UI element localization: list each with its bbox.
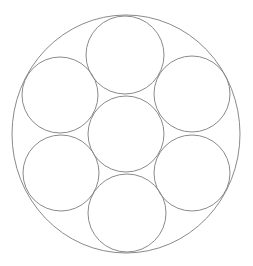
outer-circle [12, 15, 240, 253]
inner-circle-bottom [88, 174, 166, 252]
inner-circle-top [86, 16, 164, 94]
inner-circle-lower-right [154, 135, 230, 211]
inner-circle-center [88, 96, 164, 172]
diagram-canvas [0, 0, 253, 266]
inner-circle-upper-left [22, 57, 98, 133]
circle-packing-diagram [0, 0, 253, 266]
inner-circles-group [22, 16, 230, 252]
inner-circle-upper-right [154, 56, 230, 132]
inner-circle-lower-left [23, 135, 99, 211]
